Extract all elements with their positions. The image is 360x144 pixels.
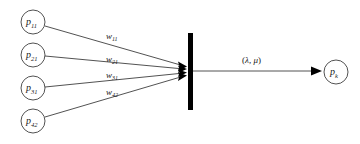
arrowhead-output-icon xyxy=(311,67,322,76)
weight-label-w21: w21 xyxy=(106,54,118,65)
neural-node-diagram: p11 p21 p31 p42 pk w11 w21 w31 xyxy=(0,0,360,144)
diagram-canvas: p11 p21 p31 p42 pk w11 w21 w31 xyxy=(0,0,360,144)
weight-label-w42: w42 xyxy=(106,87,118,98)
weight-labels: w11 w21 w31 w42 xyxy=(106,31,118,98)
barrier-bar xyxy=(188,33,193,110)
output-parameter-label: (λ, μ) xyxy=(242,55,261,65)
weight-label-w11: w11 xyxy=(106,31,118,42)
arrowhead-group xyxy=(178,62,187,82)
output-edge-group xyxy=(193,67,322,76)
weight-label-w31: w31 xyxy=(106,70,118,81)
